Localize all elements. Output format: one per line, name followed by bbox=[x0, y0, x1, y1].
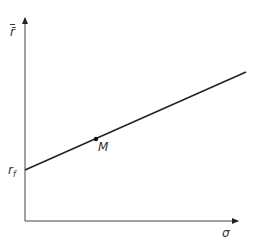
intercept-sub: f bbox=[13, 170, 16, 179]
x-axis-label: σ bbox=[222, 226, 230, 240]
capital-market-line bbox=[25, 72, 246, 170]
y-axis-label: r̄ bbox=[10, 25, 15, 39]
market-point-label: M bbox=[98, 140, 108, 154]
intercept-label: rf bbox=[8, 163, 16, 179]
chart-canvas bbox=[0, 0, 261, 245]
